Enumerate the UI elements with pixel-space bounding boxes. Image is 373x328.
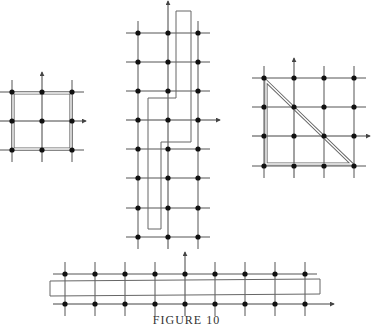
lattice-point xyxy=(212,271,217,276)
lattice-point xyxy=(302,271,307,276)
lattice-point xyxy=(135,59,140,64)
lattice-point xyxy=(351,133,356,138)
lattice-point xyxy=(165,30,170,35)
lattice-point xyxy=(165,205,170,210)
lattice-point xyxy=(261,133,266,138)
lattice-point xyxy=(195,234,200,239)
lattice-point xyxy=(92,271,97,276)
region-boundary-inner xyxy=(266,81,352,164)
lattice-point xyxy=(135,117,140,122)
lattice-point xyxy=(165,234,170,239)
lattice-point xyxy=(242,271,247,276)
lattice-triangle-figure xyxy=(252,58,370,178)
lattice-point xyxy=(195,88,200,93)
lattice-point xyxy=(135,30,140,35)
lattice-point xyxy=(321,104,326,109)
lattice-square-figure xyxy=(0,72,86,162)
lattice-point xyxy=(195,117,200,122)
lattice-point xyxy=(195,146,200,151)
lattice-point xyxy=(165,146,170,151)
lattice-point xyxy=(69,147,74,152)
lattice-point xyxy=(135,146,140,151)
lattice-point xyxy=(261,163,266,168)
lattice-point xyxy=(291,163,296,168)
lattice-point xyxy=(261,104,266,109)
lattice-point xyxy=(261,75,266,80)
lattice-point xyxy=(69,118,74,123)
lattice-point xyxy=(302,301,307,306)
lattice-point xyxy=(351,75,356,80)
lattice-point xyxy=(182,271,187,276)
lattice-point xyxy=(195,59,200,64)
lattice-point xyxy=(195,205,200,210)
lattice-point xyxy=(135,234,140,239)
lattice-point xyxy=(152,271,157,276)
lattice-point xyxy=(165,117,170,122)
lattice-point xyxy=(165,88,170,93)
lattice-point xyxy=(39,147,44,152)
lattice-point xyxy=(152,301,157,306)
lattice-point xyxy=(195,30,200,35)
lattice-tall-strip-figure xyxy=(126,1,220,249)
lattice-point xyxy=(321,163,326,168)
lattice-point xyxy=(62,301,67,306)
lattice-point xyxy=(92,301,97,306)
lattice-point xyxy=(195,175,200,180)
lattice-point xyxy=(62,271,67,276)
lattice-point xyxy=(272,301,277,306)
lattice-point xyxy=(321,75,326,80)
lattice-horizontal-strip-figure xyxy=(50,252,334,316)
lattice-point xyxy=(291,104,296,109)
lattice-point xyxy=(291,133,296,138)
lattice-point xyxy=(212,301,217,306)
lattice-point xyxy=(351,104,356,109)
lattice-point xyxy=(135,205,140,210)
lattice-point xyxy=(242,301,247,306)
lattice-point xyxy=(165,175,170,180)
lattice-point xyxy=(182,301,187,306)
lattice-point xyxy=(291,75,296,80)
lattice-point xyxy=(135,88,140,93)
lattice-point xyxy=(39,89,44,94)
figure-caption: FIGURE 10 xyxy=(0,313,373,328)
lattice-point xyxy=(39,118,44,123)
lattice-point xyxy=(9,147,14,152)
lattice-point xyxy=(9,89,14,94)
lattice-point xyxy=(135,175,140,180)
lattice-point xyxy=(122,301,127,306)
lattice-point xyxy=(69,89,74,94)
lattice-point xyxy=(122,271,127,276)
lattice-point xyxy=(351,163,356,168)
lattice-point xyxy=(321,133,326,138)
lattice-point xyxy=(272,271,277,276)
lattice-point xyxy=(165,59,170,64)
lattice-point xyxy=(9,118,14,123)
